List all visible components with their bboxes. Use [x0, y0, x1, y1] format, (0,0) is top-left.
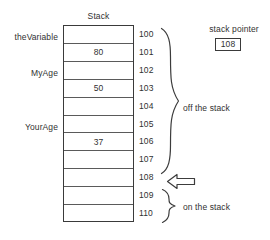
stack-pointer-label: stack pointer	[198, 24, 270, 34]
stack-table: 80 50 37	[63, 25, 134, 222]
stack-row	[64, 26, 133, 44]
address-label: 107	[139, 154, 161, 164]
stack-pointer-value: 108	[221, 40, 235, 49]
address-label: 106	[139, 136, 161, 146]
stack-row	[64, 98, 133, 116]
stack-row	[64, 169, 133, 187]
stack-row: 80	[64, 44, 133, 62]
stack-title: Stack	[63, 11, 134, 21]
address-label: 108	[139, 172, 161, 182]
stack-row	[64, 205, 133, 223]
variable-label-myage: MyAge	[0, 68, 58, 78]
stack-cell-value: 37	[94, 137, 104, 147]
off-the-stack-label: off the stack	[183, 103, 230, 113]
address-label: 105	[139, 119, 161, 129]
address-label: 104	[139, 101, 161, 111]
stack-row	[64, 116, 133, 134]
address-label: 101	[139, 47, 161, 57]
stack-row: 50	[64, 80, 133, 98]
variable-label-yourage: YourAge	[0, 122, 58, 132]
stack-row: 37	[64, 133, 133, 151]
stack-cell-value: 80	[94, 47, 104, 57]
stack-pointer-value-box: 108	[215, 38, 241, 51]
address-label: 102	[139, 65, 161, 75]
stack-row	[64, 62, 133, 80]
stack-row	[64, 151, 133, 169]
off-the-stack-brace	[160, 27, 182, 175]
stack-cell-value: 50	[94, 83, 104, 93]
on-the-stack-label: on the stack	[183, 202, 230, 212]
stack-row	[64, 187, 133, 205]
stack-diagram: Stack theVariable MyAge YourAge 80 50 37	[0, 0, 270, 240]
address-label: 100	[139, 29, 161, 39]
address-label: 109	[139, 190, 161, 200]
variable-label-thevariable: theVariable	[0, 32, 58, 42]
address-label: 103	[139, 83, 161, 93]
on-the-stack-brace	[160, 188, 180, 224]
stack-pointer-arrow-icon	[166, 173, 196, 190]
address-label: 110	[139, 208, 161, 218]
